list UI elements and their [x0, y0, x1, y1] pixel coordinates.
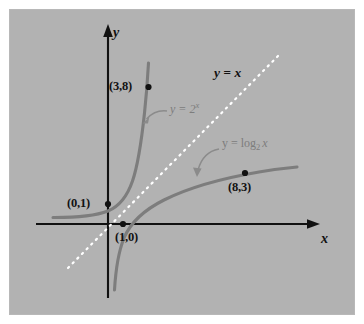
exponential-curve	[53, 63, 149, 218]
exp-label-prefix: y = 2	[170, 102, 195, 116]
log-annotation-arrow	[193, 149, 219, 177]
exp-annotation-arrow	[143, 111, 168, 124]
point-label-0-1: (0,1)	[67, 197, 90, 210]
point-marker-8-3	[242, 170, 248, 176]
figure-canvas: (3,8) (0,1) (1,0) (8,3) y x y = x y = 2x…	[0, 0, 364, 324]
point-marker-3-8	[145, 84, 151, 90]
y-axis-label: y	[113, 26, 119, 40]
logarithmic-curve-label: y = log2x	[222, 137, 268, 152]
log-label-prefix: y = log	[222, 136, 256, 150]
point-label-8-3: (8,3)	[228, 181, 251, 194]
identity-line-label: y = x	[214, 66, 241, 80]
figure-panel: (3,8) (0,1) (1,0) (8,3) y x y = x y = 2x…	[9, 9, 355, 315]
exp-label-exponent: x	[195, 100, 199, 110]
graph-plot-area	[9, 9, 355, 315]
identity-line	[68, 55, 279, 268]
log-label-base: 2	[256, 142, 260, 152]
point-label-3-8: (3,8)	[109, 80, 132, 93]
logarithmic-curve	[115, 167, 298, 290]
point-marker-0-1	[105, 201, 111, 207]
y-axis	[103, 24, 113, 298]
log-label-arg: x	[262, 136, 267, 150]
point-label-1-0: (1,0)	[115, 231, 138, 244]
exponential-curve-label: y = 2x	[170, 101, 199, 115]
x-axis-label: x	[321, 232, 328, 246]
point-marker-1-0	[120, 221, 126, 227]
x-axis	[36, 219, 320, 229]
